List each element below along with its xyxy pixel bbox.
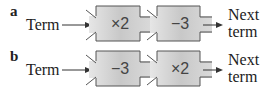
- part-label: a: [10, 3, 18, 20]
- diagram-a: a Term ×2 −3 Next term: [0, 0, 273, 45]
- machine-op-2: ×2: [160, 60, 200, 78]
- output-term: Next term: [228, 51, 259, 85]
- machine-op-1: ×2: [100, 15, 140, 33]
- machine-op-1: −3: [100, 60, 140, 78]
- diagram-b: b Term −3 ×2 Next term: [0, 45, 273, 90]
- part-label: b: [10, 48, 18, 65]
- input-term: Term: [26, 61, 60, 79]
- machine-op-2: −3: [160, 15, 200, 33]
- input-term: Term: [26, 16, 60, 34]
- output-term: Next term: [228, 6, 259, 40]
